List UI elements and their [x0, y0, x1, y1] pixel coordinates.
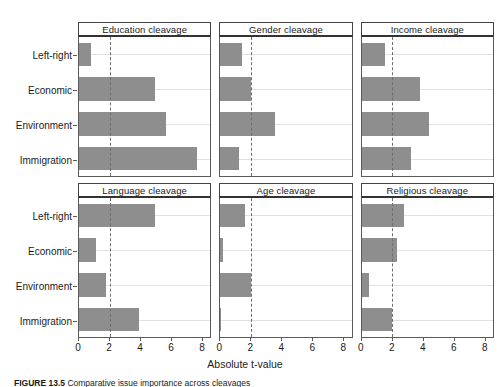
x-tick-mark — [219, 338, 220, 341]
panel-title: Gender cleavage — [219, 22, 352, 37]
bar-economic — [362, 77, 420, 101]
y-tick-label-immigration: Immigration — [20, 154, 72, 165]
bar-left-right — [362, 43, 385, 67]
x-tick-label-0: 0 — [217, 342, 223, 353]
x-tick-label-8: 8 — [482, 342, 488, 353]
plot-area — [219, 198, 352, 338]
y-tick-mark — [73, 125, 77, 126]
x-tick-label-2: 2 — [248, 342, 254, 353]
panel-gender-cleavage: Gender cleavage — [219, 22, 352, 177]
bar-immigration — [220, 308, 221, 332]
y-tick-label-left-right: Left-right — [33, 49, 72, 60]
y-tick-label-immigration: Immigration — [20, 315, 72, 326]
x-tick-label-2: 2 — [106, 342, 112, 353]
y-tick-label-left-right: Left-right — [33, 210, 72, 221]
x-tick-label-2: 2 — [389, 342, 395, 353]
bar-economic — [220, 238, 222, 262]
panel-language-cleavage: Language cleavage — [78, 183, 211, 338]
x-axis-column-1: 02468 — [219, 338, 352, 358]
x-axis-title: Absolute t-value — [0, 358, 502, 370]
plot-area — [78, 198, 211, 338]
bar-economic — [79, 77, 155, 101]
reference-line — [392, 37, 393, 176]
x-tick-mark — [109, 338, 110, 341]
y-tick-mark — [73, 251, 77, 252]
x-tick-mark — [312, 338, 313, 341]
figure-container: Left-rightEconomicEnvironmentImmigration… — [0, 0, 502, 387]
x-tick-label-4: 4 — [279, 342, 285, 353]
x-tick-mark — [454, 338, 455, 341]
bar-immigration — [362, 147, 411, 171]
reference-line — [251, 198, 252, 337]
bar-environment — [79, 112, 166, 136]
panel-grid: Education cleavageGender cleavageIncome … — [78, 22, 494, 338]
y-tick-label-economic: Economic — [28, 245, 72, 256]
x-tick-label-6: 6 — [168, 342, 174, 353]
x-tick-mark — [485, 338, 486, 341]
y-tick-label-environment: Environment — [16, 119, 72, 130]
y-tick-mark — [73, 286, 77, 287]
bar-immigration — [79, 147, 197, 171]
x-tick-mark — [78, 338, 79, 341]
caption-number: FIGURE 13.5 — [14, 378, 65, 387]
bar-economic — [220, 77, 251, 101]
plot-area — [78, 37, 211, 177]
y-axis-labels: Left-rightEconomicEnvironmentImmigration… — [0, 22, 78, 338]
bar-immigration — [220, 147, 239, 171]
x-tick-mark — [423, 338, 424, 341]
panel-title: Income cleavage — [361, 22, 494, 37]
x-axis-column-0: 02468 — [78, 338, 211, 358]
gridline — [362, 285, 493, 286]
bar-environment — [220, 112, 275, 136]
x-tick-mark — [171, 338, 172, 341]
plot-area — [219, 37, 352, 177]
bar-environment — [220, 273, 251, 297]
panel-religious-cleavage: Religious cleavage — [361, 183, 494, 338]
gridline — [79, 250, 210, 251]
panel-title: Age cleavage — [219, 183, 352, 198]
x-tick-label-6: 6 — [451, 342, 457, 353]
bar-environment — [362, 112, 429, 136]
panel-title: Religious cleavage — [361, 183, 494, 198]
x-axis-title-text: Absolute t-value — [207, 358, 282, 370]
panel-title: Education cleavage — [78, 22, 211, 37]
bar-left-right — [362, 204, 405, 228]
gridline — [220, 159, 351, 160]
x-tick-mark — [202, 338, 203, 341]
panel-income-cleavage: Income cleavage — [361, 22, 494, 177]
y-tick-mark — [73, 160, 77, 161]
bar-left-right — [79, 204, 155, 228]
reference-line — [110, 37, 111, 176]
panel-education-cleavage: Education cleavage — [78, 22, 211, 177]
y-tick-mark — [73, 321, 77, 322]
figure-caption: FIGURE 13.5 Comparative issue importance… — [14, 378, 492, 387]
panel-age-cleavage: Age cleavage — [219, 183, 352, 338]
x-axis-column-2: 02468 — [361, 338, 494, 358]
reference-line — [251, 37, 252, 176]
x-tick-label-8: 8 — [199, 342, 205, 353]
reference-line — [392, 198, 393, 337]
y-tick-mark — [73, 90, 77, 91]
x-tick-mark — [281, 338, 282, 341]
bar-environment — [79, 273, 106, 297]
x-tick-label-6: 6 — [310, 342, 316, 353]
caption-text: Comparative issue importance across clea… — [67, 378, 250, 387]
y-tick-mark — [73, 55, 77, 56]
x-tick-mark — [392, 338, 393, 341]
x-tick-label-8: 8 — [341, 342, 347, 353]
y-tick-mark — [73, 216, 77, 217]
plot-area — [361, 198, 494, 338]
x-tick-label-4: 4 — [420, 342, 426, 353]
gridline — [79, 54, 210, 55]
plot-area — [361, 37, 494, 177]
x-tick-mark — [361, 338, 362, 341]
reference-line — [110, 198, 111, 337]
x-tick-label-4: 4 — [137, 342, 143, 353]
bar-immigration — [362, 308, 393, 332]
y-tick-label-economic: Economic — [28, 84, 72, 95]
x-tick-label-0: 0 — [358, 342, 364, 353]
gridline — [220, 250, 351, 251]
gridline — [220, 320, 351, 321]
bar-left-right — [220, 204, 244, 228]
x-tick-mark — [343, 338, 344, 341]
